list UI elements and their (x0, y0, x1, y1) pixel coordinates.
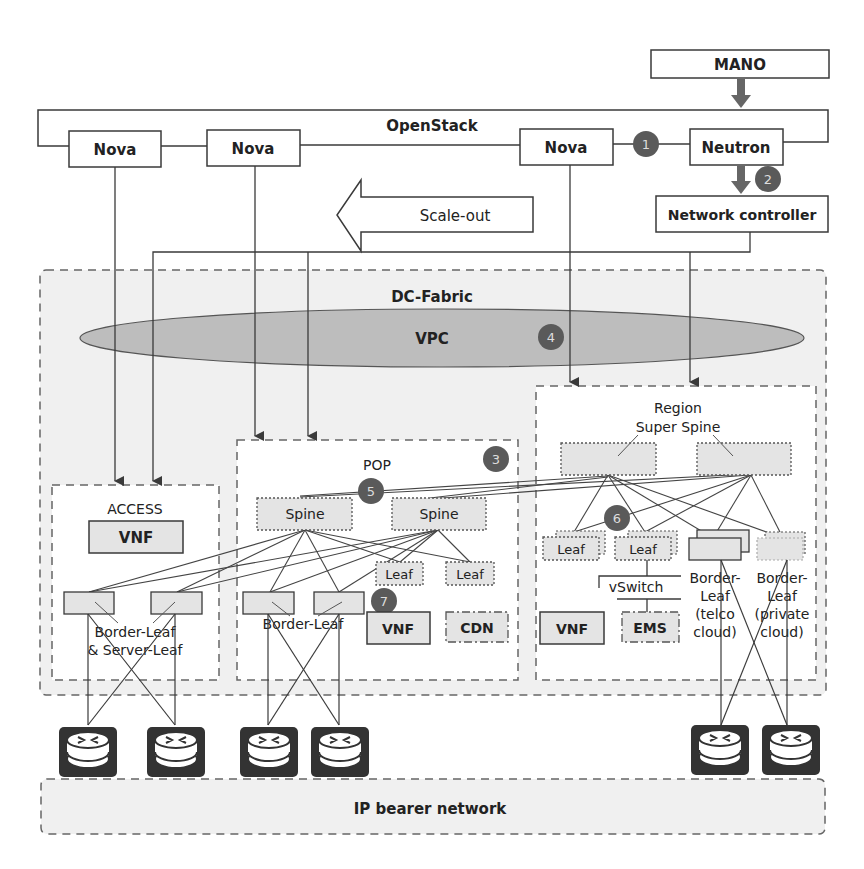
ip-bearer-network[interactable]: IP bearer network (41, 779, 825, 834)
svg-text:1: 1 (642, 137, 650, 152)
pop-spine-2-label: Spine (419, 506, 458, 522)
pop-spine-1-label: Spine (285, 506, 324, 522)
nova-box-1[interactable]: Nova (69, 131, 161, 167)
nova-label-3: Nova (545, 139, 588, 157)
dc-fabric-label: DC-Fabric (391, 288, 473, 306)
step-badge-2: 2 (755, 166, 781, 192)
pop-cdn-label: CDN (460, 620, 494, 636)
mano-label: MANO (714, 56, 766, 74)
pop-vnf[interactable]: VNF (367, 612, 430, 644)
svg-text:7: 7 (380, 594, 388, 609)
nova-box-3[interactable]: Nova (520, 129, 613, 165)
access-leaf-1[interactable] (64, 592, 114, 614)
router-icon-1[interactable] (59, 727, 117, 777)
border-leaf-private[interactable] (757, 538, 803, 560)
svg-text:Leaf: Leaf (767, 588, 798, 604)
pop-spine-1[interactable]: Spine (257, 498, 352, 530)
router-icon-2[interactable] (147, 727, 205, 777)
svg-text:Border-: Border- (689, 570, 740, 586)
vpc-label: VPC (415, 330, 449, 348)
pop-vnf-label: VNF (382, 621, 414, 637)
step-badge-7: 7 (371, 588, 397, 614)
nova-label-2: Nova (232, 140, 275, 158)
router-icon-6[interactable] (762, 725, 820, 775)
svg-text:5: 5 (367, 484, 375, 499)
step-badge-3: 3 (483, 446, 509, 472)
step-badge-4: 4 (538, 324, 564, 350)
network-controller-label: Network controller (668, 207, 817, 223)
svg-text:2: 2 (764, 172, 772, 187)
region-vnf[interactable]: VNF (540, 612, 604, 644)
access-vnf[interactable]: VNF (89, 521, 183, 553)
vswitch-label: vSwitch (609, 579, 664, 595)
region-vnf-label: VNF (556, 621, 588, 637)
mano-box[interactable]: MANO (651, 50, 829, 78)
region-title-1: Region (654, 400, 702, 416)
openstack-label: OpenStack (386, 117, 478, 135)
pop-spine-2[interactable]: Spine (392, 498, 486, 530)
super-spine-1[interactable] (561, 443, 656, 475)
neutron-label: Neutron (702, 139, 771, 157)
pop-border-leaf-1[interactable] (243, 592, 294, 614)
mano-to-openstack-arrow (731, 79, 751, 108)
router-icon-5[interactable] (691, 725, 749, 775)
super-spine-2[interactable] (697, 443, 791, 475)
pop-leaf-2[interactable]: Leaf (446, 562, 494, 585)
region-leaf-2-label: Leaf (629, 542, 657, 557)
pop-leaf-1-label: Leaf (385, 567, 413, 582)
region-leaf-2[interactable]: Leaf (615, 537, 671, 560)
scale-out-arrow: Scale-out (337, 180, 533, 251)
svg-text:cloud): cloud) (760, 624, 803, 640)
region-ems[interactable]: EMS (622, 612, 679, 642)
step-badge-6: 6 (604, 505, 630, 531)
router-icon-3[interactable] (240, 727, 298, 777)
step-badge-5: 5 (358, 478, 384, 504)
pop-leaf-1[interactable]: Leaf (376, 562, 423, 585)
access-leaf-2[interactable] (151, 592, 202, 614)
nova-box-2[interactable]: Nova (207, 130, 300, 166)
pop-leaf-2-label: Leaf (456, 567, 484, 582)
access-title: ACCESS (107, 501, 163, 517)
region-title-2: Super Spine (636, 419, 721, 435)
ip-bearer-label: IP bearer network (354, 800, 508, 818)
border-leaf-telco[interactable] (689, 538, 741, 560)
scale-out-label: Scale-out (420, 207, 491, 225)
network-controller-box[interactable]: Network controller (656, 196, 828, 232)
nova-label-1: Nova (94, 141, 137, 159)
pop-border-leaf-2[interactable] (314, 592, 364, 614)
region-ems-label: EMS (633, 620, 667, 636)
svg-text:(telco: (telco (695, 606, 735, 622)
svg-text:Leaf: Leaf (700, 588, 731, 604)
neutron-box[interactable]: Neutron (690, 129, 783, 165)
svg-text:4: 4 (547, 330, 555, 345)
svg-text:6: 6 (613, 511, 621, 526)
access-vnf-label: VNF (119, 529, 153, 547)
access-leaf-label-2: & Server-Leaf (87, 642, 183, 658)
neutron-to-controller-arrow (731, 166, 751, 194)
step-badge-1: 1 (633, 131, 659, 157)
svg-text:3: 3 (492, 452, 500, 467)
region-leaf-1-label: Leaf (557, 542, 585, 557)
router-icon-4[interactable] (311, 727, 369, 777)
pop-cdn[interactable]: CDN (446, 612, 508, 642)
pop-title: POP (363, 457, 391, 473)
svg-text:cloud): cloud) (693, 624, 736, 640)
region-leaf-1[interactable]: Leaf (543, 537, 599, 560)
architecture-diagram: MANO OpenStack Nova Nova Nova Neutron 1 (0, 0, 864, 869)
vpc-ellipse[interactable]: VPC (80, 309, 804, 367)
